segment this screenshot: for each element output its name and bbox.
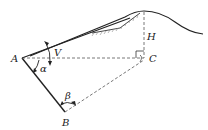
right-angle-marker [136, 51, 144, 58]
arrow-beta-left [60, 101, 64, 106]
label-h: H [146, 31, 156, 42]
label-a: A [10, 53, 18, 64]
hatching [92, 14, 138, 36]
label-b: B [61, 117, 69, 128]
label-alpha: α [40, 63, 47, 74]
sight-line [22, 18, 130, 58]
diagram-canvas: A B C H V α β [0, 0, 208, 130]
label-c: C [149, 53, 157, 64]
line-bc [65, 60, 144, 112]
arrow-v-bottom [48, 61, 52, 66]
vertical-angle-arc [46, 43, 50, 62]
label-v: V [54, 47, 63, 58]
arrow-v-top [44, 41, 49, 46]
label-beta: β [64, 90, 71, 101]
angle-arc-c [140, 55, 142, 62]
arrow-alpha [33, 68, 37, 73]
